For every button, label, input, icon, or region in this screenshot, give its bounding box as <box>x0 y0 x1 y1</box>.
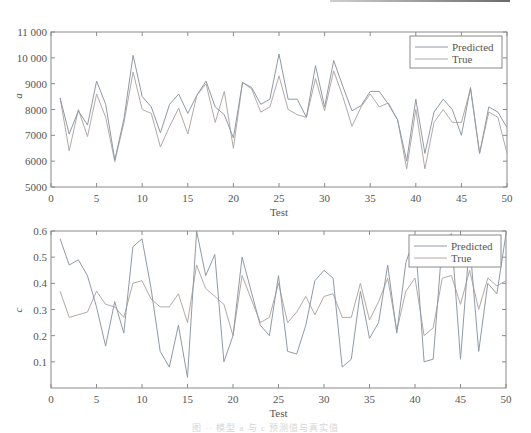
x-tick-label: 0 <box>48 192 54 204</box>
x-tick-label: 30 <box>319 192 331 204</box>
y-tick-label: 9000 <box>25 78 48 90</box>
x-axis-label: Test <box>270 206 288 218</box>
legend: PredictedTrue <box>409 235 501 267</box>
x-tick-label: 5 <box>94 393 100 405</box>
y-tick-label: 0.1 <box>33 356 47 368</box>
y-tick-label: 0.3 <box>33 304 47 316</box>
y-tick-label: 5000 <box>25 181 48 193</box>
x-tick-label: 20 <box>228 393 240 405</box>
y-tick-label: 6000 <box>25 155 48 167</box>
x-tick-label: 45 <box>456 192 468 204</box>
x-tick-label: 50 <box>501 393 513 405</box>
y-tick-label: 0.5 <box>33 251 47 263</box>
legend: PredictedTrue <box>410 36 502 68</box>
y-tick-label: 0.6 <box>33 225 47 237</box>
y-tick-label: 0.4 <box>33 277 47 289</box>
x-tick-label: 5 <box>94 192 100 204</box>
legend-label-predicted: Predicted <box>451 240 493 252</box>
x-tick-label: 40 <box>410 393 422 405</box>
figure-caption: 图 ·· 模型 a 与 c 预测值与真实值 <box>0 421 531 433</box>
x-tick-label: 30 <box>319 393 331 405</box>
y-tick-label: 8000 <box>25 104 48 116</box>
y-tick-label: 0.2 <box>33 330 47 342</box>
legend-label-true: True <box>452 53 472 65</box>
x-tick-label: 35 <box>365 192 377 204</box>
x-tick-label: 15 <box>182 192 194 204</box>
y-tick-label: 7000 <box>25 129 48 141</box>
figure: 0510152025303540455050006000700080009000… <box>0 0 531 433</box>
x-tick-label: 10 <box>137 192 149 204</box>
x-axis-label: Test <box>269 407 287 419</box>
x-tick-label: 35 <box>364 393 376 405</box>
x-tick-label: 15 <box>182 393 194 405</box>
x-tick-label: 25 <box>274 192 286 204</box>
subplot-c: 051015202530354045500.10.20.30.40.50.6Te… <box>12 225 512 419</box>
x-tick-label: 25 <box>273 393 285 405</box>
x-tick-label: 40 <box>410 192 422 204</box>
y-tick-label: 10 000 <box>17 52 48 64</box>
x-tick-label: 50 <box>502 192 514 204</box>
legend-label-true: True <box>451 252 471 264</box>
x-tick-label: 0 <box>48 393 54 405</box>
y-axis-label: c <box>12 307 24 312</box>
x-tick-label: 10 <box>137 393 149 405</box>
legend-label-predicted: Predicted <box>452 41 494 53</box>
series-line-true <box>60 71 507 169</box>
x-tick-label: 45 <box>455 393 467 405</box>
x-tick-label: 20 <box>228 192 240 204</box>
y-tick-label: 11 000 <box>17 26 47 38</box>
y-axis-label: a <box>12 93 24 99</box>
subplot-a: 0510152025303540455050006000700080009000… <box>12 26 513 218</box>
